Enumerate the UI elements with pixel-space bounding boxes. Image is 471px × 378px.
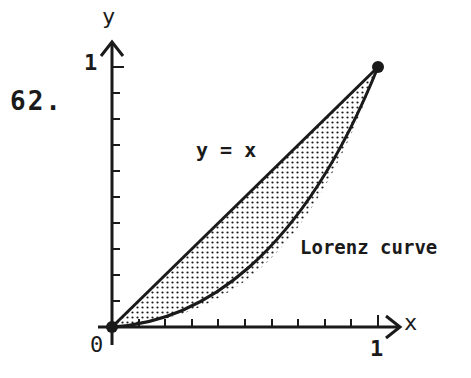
equality-line [112,67,378,327]
problem-number: 62. [10,86,63,116]
lorenz-diagram [0,0,471,378]
endpoint-origin [106,321,118,333]
y-axis-label: y [102,4,115,29]
x-axis-label: x [404,310,417,335]
y-tick-label-1: 1 [84,50,97,75]
origin-label: 0 [90,332,103,357]
y-ticks [112,67,124,301]
lorenz-curve-label: Lorenz curve [300,236,437,258]
x-ticks [139,315,378,327]
y-axis [101,42,123,345]
endpoint-one-one [372,61,384,73]
equality-line-label: y = x [196,138,256,162]
x-tick-label-1: 1 [370,336,383,361]
